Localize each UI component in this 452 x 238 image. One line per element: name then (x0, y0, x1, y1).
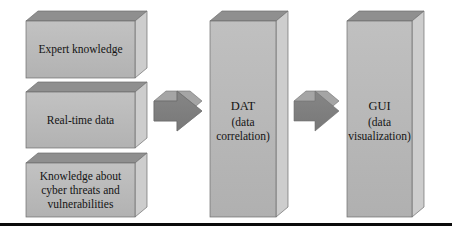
box-right-face (135, 82, 147, 148)
column-dat (210, 11, 288, 217)
box-front-face (26, 92, 135, 148)
bottom-divider (0, 223, 452, 226)
figure-canvas: Expert knowledge Real-time data Knowledg… (0, 0, 452, 238)
column-front-face (210, 21, 276, 217)
column-top-face (210, 11, 288, 21)
arrow-dat-to-gui (294, 91, 339, 131)
column-right-face (276, 11, 288, 217)
box-front-face (26, 21, 135, 78)
column-right-face (412, 11, 424, 217)
box-right-face (135, 153, 147, 217)
column-front-face (347, 21, 412, 217)
box-right-face (135, 11, 147, 78)
box-top-face (26, 11, 147, 21)
box-real-time-data (26, 82, 147, 148)
arrow-sources-to-dat (154, 91, 202, 131)
box-expert-knowledge (26, 11, 147, 78)
box-front-face (26, 163, 135, 217)
column-top-face (347, 11, 424, 21)
diagram-stage: Expert knowledge Real-time data Knowledg… (0, 0, 452, 238)
column-gui (347, 11, 424, 217)
box-top-face (26, 82, 147, 92)
box-top-face (26, 153, 147, 163)
box-cyber-threat-knowledge (26, 153, 147, 217)
diagram-svg (0, 0, 452, 238)
